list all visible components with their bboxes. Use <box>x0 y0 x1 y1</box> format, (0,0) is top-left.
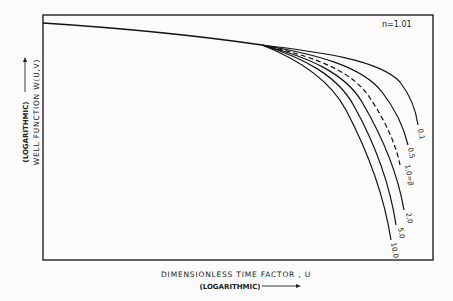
curve-label-0.1: 0.1 <box>416 128 426 140</box>
y-axis-sublabel: (LOGARITHMIC) <box>22 101 30 162</box>
x-axis-sublabel: (LOGARITHMIC) <box>199 283 260 291</box>
curve-label-1.0: 1.0=β <box>403 164 415 187</box>
plot-frame <box>43 15 433 260</box>
x-axis-arrowhead-icon <box>296 284 301 288</box>
annotation-n: n=1.01 <box>382 20 412 29</box>
curve-1.0-dashed <box>262 45 400 165</box>
curve-label-0.5: 0.5 <box>406 147 416 159</box>
y-axis-label: WELL FUNCTION W(U,V) <box>32 59 41 166</box>
x-axis-label: DIMENSIONLESS TIME FACTOR , U <box>161 270 311 279</box>
curve-5.0 <box>262 45 396 225</box>
curve-label-2.0: 2.0 <box>404 212 414 224</box>
curve-label-10.0: 10.0 <box>389 242 400 259</box>
curve-0.5 <box>262 45 408 145</box>
chart: n=1.01 0.1 0.5 1.0=β 2.0 5.0 10.0 DIMENS… <box>0 0 453 301</box>
curve-0.1 <box>262 45 418 125</box>
curve-label-5.0: 5.0 <box>396 227 406 239</box>
common-curve-branch <box>43 23 262 45</box>
y-axis-arrowhead-icon <box>23 57 27 62</box>
